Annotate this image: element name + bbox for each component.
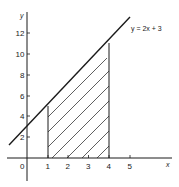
y-tick-label-4: 4: [20, 112, 25, 121]
y-tick-label-12: 12: [16, 29, 25, 38]
y-axis-label: y: [19, 12, 24, 20]
x-axis-label: x: [165, 161, 170, 168]
equation-label: y = 2x + 3: [131, 25, 162, 33]
y-tick-label-6: 6: [20, 92, 25, 101]
x-tick-label-1: 1: [46, 162, 51, 171]
area-under-line-figure: y x 0 1 2 3 4 5 2 4 6 8 10 12 y = 2x + 3: [0, 0, 179, 187]
x-tick-label-4: 4: [107, 162, 112, 171]
y-tick-label-2: 2: [20, 133, 25, 142]
origin-label: 0: [20, 162, 25, 171]
x-tick-label-2: 2: [66, 162, 71, 171]
y-tick-label-10: 10: [16, 50, 25, 59]
x-tick-label-5: 5: [128, 162, 133, 171]
chart-svg: y x 0 1 2 3 4 5 2 4 6 8 10 12 y = 2x + 3: [0, 0, 179, 187]
y-tick-label-8: 8: [20, 71, 25, 80]
x-tick-label-3: 3: [86, 162, 91, 171]
